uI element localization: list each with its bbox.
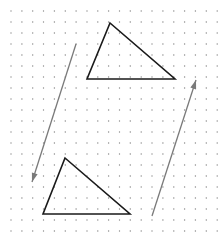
grid-dot [10, 43, 11, 44]
grid-dot [217, 43, 218, 44]
grid-dot [162, 76, 163, 77]
grid-dot [21, 153, 22, 154]
grid-dot [119, 87, 120, 88]
grid-dot [75, 131, 76, 132]
grid-dot [217, 65, 218, 66]
grid-dot [162, 219, 163, 220]
grid-dot [21, 230, 22, 231]
grid-dot [10, 208, 11, 209]
grid-dot [65, 98, 66, 99]
grid-dot [32, 43, 33, 44]
grid-dot [21, 109, 22, 110]
translation-arrow-up-right [152, 80, 196, 216]
grid-dot [108, 87, 109, 88]
grid-dot [151, 131, 152, 132]
grid-dot [10, 98, 11, 99]
grid-dot [108, 230, 109, 231]
grid-dot [195, 230, 196, 231]
grid-dot [217, 197, 218, 198]
grid-dot [21, 175, 22, 176]
grid-dot [97, 208, 98, 209]
grid-dot [32, 54, 33, 55]
grid-dot [65, 43, 66, 44]
grid-dot [75, 76, 76, 77]
grid-dot [173, 186, 174, 187]
grid-dot [43, 186, 44, 187]
grid-dot [108, 164, 109, 165]
grid-dot [108, 10, 109, 11]
grid-dot [10, 219, 11, 220]
grid-dot [97, 164, 98, 165]
grid-dot [151, 197, 152, 198]
grid-dot [173, 21, 174, 22]
translation-arrows [32, 44, 196, 216]
grid-dot [75, 98, 76, 99]
grid-dot [130, 120, 131, 121]
grid-dot [162, 175, 163, 176]
grid-dot [43, 21, 44, 22]
grid-dot [151, 76, 152, 77]
grid-dot [21, 142, 22, 143]
grid-dot [97, 175, 98, 176]
grid-dot [206, 131, 207, 132]
grid-dot [184, 208, 185, 209]
grid-dot [130, 109, 131, 110]
grid-dot [217, 87, 218, 88]
grid-dot [86, 21, 87, 22]
grid-dot [206, 175, 207, 176]
grid-dot [43, 219, 44, 220]
grid-dot [217, 175, 218, 176]
grid-dot [173, 32, 174, 33]
grid-dot [195, 164, 196, 165]
grid-dot [65, 197, 66, 198]
grid-dot [75, 32, 76, 33]
grid-dot [54, 21, 55, 22]
grid-dot [119, 10, 120, 11]
grid-dot [10, 142, 11, 143]
grid-dot [75, 164, 76, 165]
grid-dot [97, 87, 98, 88]
grid-dot [162, 153, 163, 154]
grid-dot [162, 230, 163, 231]
grid-dot [32, 76, 33, 77]
grid-dot [206, 208, 207, 209]
grid-dot [86, 153, 87, 154]
grid-dot [10, 120, 11, 121]
grid-dot [32, 219, 33, 220]
grid-dot [97, 10, 98, 11]
grid-dot [151, 153, 152, 154]
grid-dot [162, 54, 163, 55]
grid-dot [10, 131, 11, 132]
grid-dot [151, 65, 152, 66]
grid-dot [162, 10, 163, 11]
grid-dot [184, 186, 185, 187]
grid-dot [184, 142, 185, 143]
grid-dot [173, 87, 174, 88]
grid-dot [108, 219, 109, 220]
grid-dot [65, 21, 66, 22]
grid-dot [206, 65, 207, 66]
grid-dot [162, 43, 163, 44]
grid-dot [151, 32, 152, 33]
grid-dot [10, 164, 11, 165]
grid-dot [108, 21, 109, 22]
grid-dot [217, 142, 218, 143]
grid-dot [141, 230, 142, 231]
grid-dot [21, 43, 22, 44]
grid-dot [108, 197, 109, 198]
grid-dot [206, 109, 207, 110]
grid-dot [195, 10, 196, 11]
grid-dot [108, 98, 109, 99]
grid-dot [184, 219, 185, 220]
grid-dot [141, 65, 142, 66]
grid-dot [10, 54, 11, 55]
grid-dot [86, 142, 87, 143]
grid-dot [75, 10, 76, 11]
grid-dot [43, 10, 44, 11]
grid-dot [54, 43, 55, 44]
grid-dot [151, 98, 152, 99]
grid-dot [162, 131, 163, 132]
grid-dot [119, 120, 120, 121]
grid-dot [97, 21, 98, 22]
grid-dot [217, 153, 218, 154]
